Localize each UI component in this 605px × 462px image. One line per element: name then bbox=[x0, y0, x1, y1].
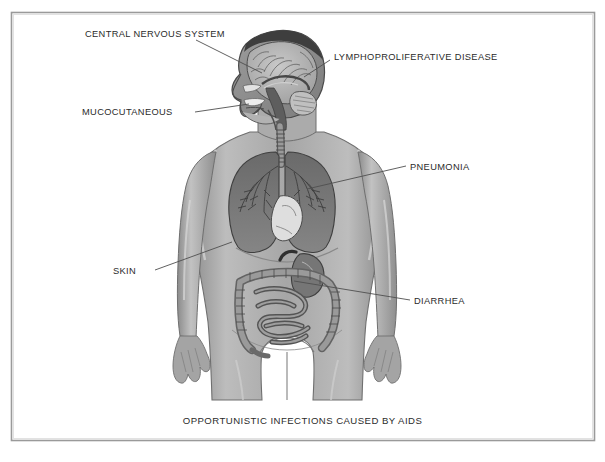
cerebellum bbox=[290, 91, 317, 115]
label-diarrhea: DIARRHEA bbox=[414, 296, 465, 306]
label-pneumonia: PNEUMONIA bbox=[410, 162, 469, 172]
label-central-nervous-system: CENTRAL NERVOUS SYSTEM bbox=[85, 29, 225, 39]
anatomical-illustration bbox=[0, 0, 605, 462]
right-hand bbox=[364, 336, 401, 383]
label-mucocutaneous: MUCOCUTANEOUS bbox=[82, 107, 173, 117]
body-figure bbox=[173, 31, 401, 401]
figure-caption: OPPORTUNISTIC INFECTIONS CAUSED BY AIDS bbox=[0, 415, 605, 426]
left-hand bbox=[173, 336, 210, 383]
label-lymphoproliferative-disease: LYMPHOPROLIFERATIVE DISEASE bbox=[334, 52, 498, 62]
label-skin: SKIN bbox=[113, 266, 136, 276]
diagram-canvas: CENTRAL NERVOUS SYSTEM LYMPHOPROLIFERATI… bbox=[0, 0, 605, 462]
